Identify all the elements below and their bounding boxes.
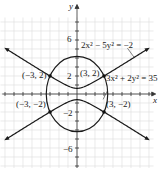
y-axis-label: y	[69, 2, 73, 11]
y-tick-2: 2	[67, 72, 72, 81]
point-label-q3: (−3, −2)	[16, 100, 46, 109]
y-tick-6: 6	[67, 35, 72, 44]
intersection-point	[48, 74, 52, 78]
hyperbola-equation: 2x² − 5y² = −2	[81, 41, 133, 50]
x-axis-label: x	[153, 96, 157, 105]
y-axis-arrow	[75, 5, 79, 9]
axes	[2, 5, 155, 169]
intersection-point	[48, 110, 52, 114]
ellipse-equation: 3x² + 2y² = 35	[106, 74, 158, 83]
intersection-point	[102, 110, 106, 114]
coordinate-plot	[0, 0, 163, 168]
y-tick-neg2: −2	[63, 109, 73, 118]
point-label-q1: (3, 2)	[80, 69, 100, 78]
point-label-q2: (−3, 2)	[22, 71, 47, 80]
y-tick-neg6: −6	[63, 145, 73, 154]
point-label-q4: (3, −2)	[106, 100, 131, 109]
